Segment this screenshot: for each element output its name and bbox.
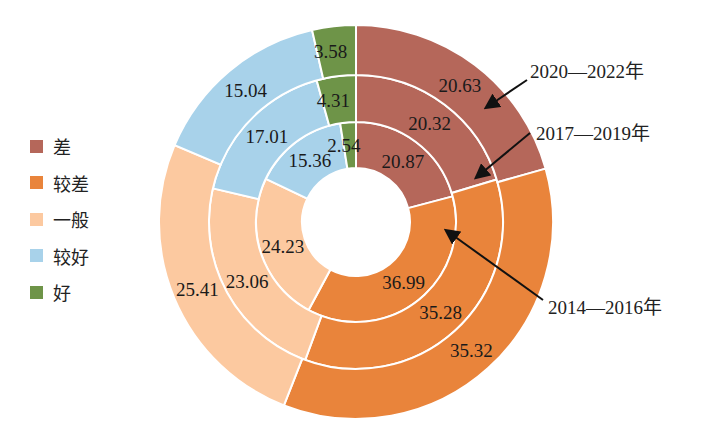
value-label: 3.58 <box>314 41 347 62</box>
value-label: 20.87 <box>382 151 425 172</box>
period-label-inner: 2014—2016年 <box>548 292 662 319</box>
legend-label: 较差 <box>53 170 89 196</box>
legend-label: 一般 <box>53 206 89 232</box>
period-label-middle: 2017—2019年 <box>536 118 650 145</box>
period-label-outer: 2020—2022年 <box>530 56 644 83</box>
legend-item-average: 一般 <box>30 201 89 238</box>
legend-swatch <box>30 286 43 299</box>
legend-swatch <box>30 249 43 262</box>
value-label: 20.32 <box>408 113 451 134</box>
value-label: 15.36 <box>289 150 332 171</box>
legend-swatch <box>30 140 43 153</box>
legend-label: 差 <box>53 133 71 159</box>
legend-item-fairly-good: 较好 <box>30 238 89 275</box>
legend-swatch <box>30 176 43 189</box>
value-label: 23.06 <box>226 271 269 292</box>
value-label: 35.28 <box>419 302 462 323</box>
legend-item-good: 好 <box>30 274 89 311</box>
value-label: 35.32 <box>450 340 493 361</box>
legend: 差 较差 一般 较好 好 <box>30 128 89 311</box>
value-label: 36.99 <box>382 272 425 293</box>
value-label: 15.04 <box>224 80 267 101</box>
legend-label: 好 <box>53 279 71 305</box>
legend-item-poor: 差 <box>30 128 89 165</box>
value-label: 2.54 <box>327 135 361 156</box>
value-label: 25.41 <box>176 279 219 300</box>
legend-item-fairly-poor: 较差 <box>30 165 89 202</box>
value-label: 20.63 <box>438 75 481 96</box>
legend-label: 较好 <box>53 243 89 269</box>
donut-rings <box>159 25 553 419</box>
value-label: 4.31 <box>317 90 350 111</box>
value-label: 24.23 <box>261 236 304 257</box>
value-label: 17.01 <box>246 126 289 147</box>
legend-swatch <box>30 213 43 226</box>
